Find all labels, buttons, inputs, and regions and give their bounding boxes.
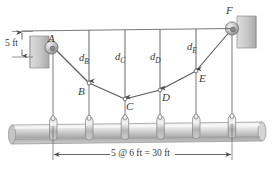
datum-line xyxy=(22,29,231,32)
label-sag-d-sub: D xyxy=(155,56,160,65)
hanger-eyelets xyxy=(51,114,234,121)
joint-b xyxy=(87,81,91,85)
label-sag-b: dB xyxy=(79,53,89,66)
label-dimension-span: 5 @ 6 ft = 30 ft xyxy=(111,149,170,159)
label-point-d: D xyxy=(162,92,170,103)
label-dimension-vertical: 5 ft xyxy=(5,39,18,49)
label-point-a: A xyxy=(48,33,55,44)
figure-canvas xyxy=(0,0,274,169)
label-point-f: F xyxy=(226,5,233,16)
label-sag-e: dE xyxy=(187,42,197,55)
label-point-e: E xyxy=(199,73,206,84)
label-sag-d: dD xyxy=(150,52,161,65)
horizontal-pipe xyxy=(8,122,266,144)
label-point-c: C xyxy=(126,101,133,112)
sag-dimension-arrows xyxy=(89,29,196,97)
cable-joints xyxy=(87,69,198,101)
support-wall-right xyxy=(237,16,256,48)
joint-e xyxy=(194,69,198,73)
label-sag-b-sub: B xyxy=(84,57,89,66)
label-sag-c: dC xyxy=(115,52,125,65)
label-sag-c-sub: C xyxy=(120,56,125,65)
label-point-b: B xyxy=(78,86,85,97)
label-sag-e-sub: E xyxy=(192,46,197,55)
cable-system-figure: A B C D E F dB dC dD dE 5 ft 5 @ 6 ft = … xyxy=(0,0,274,169)
